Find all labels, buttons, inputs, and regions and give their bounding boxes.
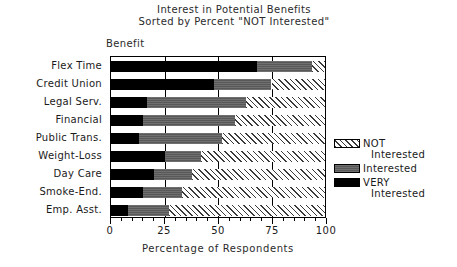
- plot-area: [110, 56, 326, 218]
- y-axis-label: Financial: [56, 114, 103, 125]
- bar-segment: [111, 187, 143, 198]
- legend: NOTInterestedInterestedVERYInterested: [334, 138, 454, 202]
- bar-segment: [246, 97, 325, 108]
- x-tick-minor: [175, 218, 176, 221]
- legend-label-line2: Interested: [371, 188, 454, 199]
- x-axis-ticks: [110, 218, 326, 224]
- bar-row: [111, 151, 325, 162]
- bar-row: [111, 133, 325, 144]
- y-axis-title: Benefit: [106, 38, 145, 49]
- bar-segment: [111, 61, 257, 72]
- legend-entry: Interested: [334, 163, 454, 174]
- x-tick-minor: [250, 218, 251, 221]
- bar-segment: [111, 97, 147, 108]
- x-tick-label: 75: [265, 225, 279, 236]
- legend-label: NOTInterested: [363, 138, 454, 160]
- x-tick-minor: [186, 218, 187, 221]
- x-tick-minor: [283, 218, 284, 221]
- legend-swatch: [334, 139, 360, 148]
- bar-segment: [111, 205, 128, 216]
- bar-segment: [111, 79, 214, 90]
- x-tick-minor: [207, 218, 208, 221]
- bar-segment: [147, 97, 245, 108]
- bar-segment: [192, 169, 325, 180]
- bar-row: [111, 97, 325, 108]
- x-tick-minor: [132, 218, 133, 221]
- bar-segment: [143, 187, 182, 198]
- bar-segment: [201, 151, 325, 162]
- x-tick-minor: [304, 218, 305, 221]
- bar-row: [111, 115, 325, 126]
- bar-rows: [111, 57, 325, 217]
- legend-label: VERYInterested: [363, 177, 454, 199]
- x-tick-major: [272, 218, 273, 224]
- x-axis-title: Percentage of Respondents: [110, 243, 326, 254]
- x-tick-minor: [196, 218, 197, 221]
- y-axis-labels: Flex TimeCredit UnionLegal Serv.Financia…: [0, 56, 106, 218]
- y-axis-label: Emp. Asst.: [46, 204, 102, 215]
- bar-segment: [222, 133, 325, 144]
- bar-segment: [272, 79, 326, 90]
- y-axis-label: Smoke-End.: [39, 186, 102, 197]
- y-axis-label: Credit Union: [36, 78, 102, 89]
- bar-segment: [139, 133, 222, 144]
- x-tick-minor: [294, 218, 295, 221]
- x-tick-label: 50: [211, 225, 225, 236]
- bar-row: [111, 169, 325, 180]
- x-tick-minor: [240, 218, 241, 221]
- legend-label-line2: Interested: [371, 149, 454, 160]
- bar-segment: [111, 169, 154, 180]
- legend-swatch: [334, 164, 360, 173]
- y-axis-label: Weight-Loss: [38, 150, 102, 161]
- x-tick-minor: [142, 218, 143, 221]
- bar-segment: [165, 151, 201, 162]
- legend-label: Interested: [363, 163, 454, 174]
- bar-segment: [235, 115, 325, 126]
- bar-segment: [257, 61, 313, 72]
- x-tick-minor: [261, 218, 262, 221]
- x-tick-minor: [229, 218, 230, 221]
- chart-subtitle: Sorted by Percent "NOT Interested": [104, 16, 364, 28]
- x-tick-minor: [153, 218, 154, 221]
- chart-title: Interest in Potential Benefits Sorted by…: [104, 4, 364, 28]
- bar-segment: [111, 115, 143, 126]
- bar-segment: [214, 79, 272, 90]
- x-tick-minor: [121, 218, 122, 221]
- chart-title-line1: Interest in Potential Benefits: [104, 4, 364, 16]
- bar-segment: [182, 187, 325, 198]
- x-tick-major: [326, 218, 327, 224]
- x-tick-label: 100: [316, 225, 336, 236]
- bar-segment: [312, 61, 325, 72]
- bar-segment: [143, 115, 235, 126]
- legend-entry: NOTInterested: [334, 138, 454, 160]
- bar-segment: [154, 169, 193, 180]
- x-tick-label: 25: [157, 225, 171, 236]
- x-tick-major: [218, 218, 219, 224]
- bar-segment: [169, 205, 325, 216]
- y-axis-label: Legal Serv.: [44, 96, 102, 107]
- y-axis-label: Flex Time: [51, 60, 102, 71]
- bar-segment: [111, 133, 139, 144]
- bar-segment: [128, 205, 169, 216]
- y-axis-label: Day Care: [54, 168, 102, 179]
- legend-entry: VERYInterested: [334, 177, 454, 199]
- x-tick-major: [164, 218, 165, 224]
- legend-swatch: [334, 178, 360, 187]
- x-tick-minor: [315, 218, 316, 221]
- bar-row: [111, 61, 325, 72]
- bar-row: [111, 79, 325, 90]
- chart-container: Interest in Potential Benefits Sorted by…: [0, 0, 457, 267]
- x-tick-label: 0: [107, 225, 114, 236]
- bar-segment: [111, 151, 165, 162]
- x-tick-major: [110, 218, 111, 224]
- bar-row: [111, 205, 325, 216]
- y-axis-label: Public Trans.: [36, 132, 102, 143]
- bar-row: [111, 187, 325, 198]
- x-axis-tick-labels: 0255075100: [110, 225, 326, 239]
